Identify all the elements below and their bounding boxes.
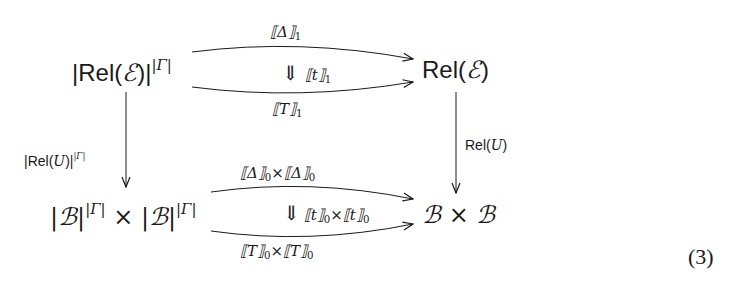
label-T-0-product: ⟦T⟧0×⟦T⟧0 (240, 244, 314, 261)
node-top-left: |Rel(ℰ)||Γ| (72, 58, 172, 85)
node-bottom-left: |ℬ||Γ| × |ℬ||Γ| (50, 202, 196, 229)
double-down-arrow-icon: ⇓ (282, 61, 299, 85)
label-delta-1: ⟦Δ⟧1 (270, 25, 301, 42)
double-down-arrow-icon: ⇓ (283, 201, 300, 225)
diagram-arrows (0, 0, 746, 286)
top-upper-arrow (192, 46, 413, 59)
label-left-rel-U: |Rel(U)||Γ| (24, 152, 85, 168)
label-delta-0-product: ⟦Δ⟧0×⟦Δ⟧0 (240, 166, 315, 183)
label-two-cell-t-1: ⇓⟦t⟧1 (282, 63, 331, 85)
bottom-lower-arrow (211, 224, 413, 237)
node-top-right: Rel(ℰ) (422, 58, 489, 82)
equation-number: (3) (688, 246, 714, 268)
node-bottom-right: ℬ × ℬ (422, 203, 495, 227)
commutative-diagram: |Rel(ℰ)||Γ| Rel(ℰ) |ℬ||Γ| × |ℬ||Γ| ℬ × ℬ… (0, 0, 746, 286)
label-T-1: ⟦T⟧1 (272, 102, 303, 119)
bottom-upper-arrow (211, 186, 413, 199)
label-two-cell-t-0-product: ⇓⟦t⟧0×⟦t⟧0 (283, 203, 369, 225)
label-right-rel-U: Rel(U) (465, 138, 507, 152)
